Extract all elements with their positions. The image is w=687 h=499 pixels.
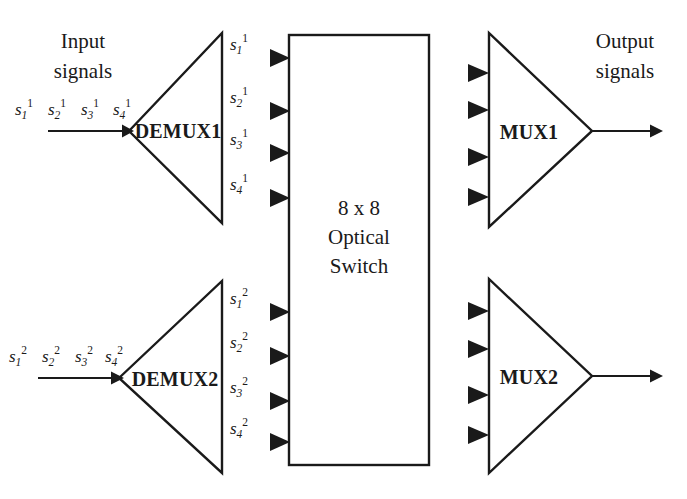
demux1-output-label-2: s21 (230, 85, 248, 109)
optical-switch-diagram: Input signals Output signals s11 s21 s31… (0, 0, 687, 499)
demux1-block: DEMUX1 (129, 33, 222, 223)
demux2-output-label-2: s22 (230, 330, 248, 354)
demux1-output-label-4: s41 (230, 172, 248, 196)
output-heading-line2: signals (596, 59, 654, 83)
mux2-label: MUX2 (500, 366, 559, 388)
diagram-canvas: Input signals Output signals s11 s21 s31… (0, 0, 687, 499)
demux1-output-wires: s11 s21 s31 s41 (215, 32, 290, 207)
mux2-output-arrow (592, 370, 663, 383)
input-arrow-top (48, 125, 134, 138)
switch-to-mux1-wires (429, 64, 489, 206)
input-bottom-signal-1: s12 (9, 344, 27, 368)
demux2-output-wires: s12 s22 s32 s42 (215, 286, 290, 451)
input-bottom-signal-3: s32 (75, 344, 93, 368)
input-heading-line1: Input (61, 29, 105, 53)
demux2-label: DEMUX2 (132, 368, 219, 390)
demux2-output-label-3: s32 (230, 375, 248, 399)
input-bundle-bottom-labels: s12 s22 s32 s42 (9, 344, 123, 368)
mux1-label: MUX1 (500, 121, 559, 143)
switch-text-line2: Optical (328, 225, 390, 249)
optical-switch-box: 8 x 8 Optical Switch (289, 35, 429, 465)
demux2-output-label-4: s42 (230, 416, 248, 440)
input-top-signal-1: s11 (15, 97, 33, 121)
input-bottom-signal-4: s42 (105, 344, 123, 368)
demux2-output-label-1: s12 (230, 286, 248, 310)
output-heading-line1: Output (596, 29, 655, 53)
input-top-signal-2: s21 (48, 97, 66, 121)
mux1-block: MUX1 (489, 33, 592, 227)
switch-to-mux2-wires (429, 302, 489, 444)
input-signals-heading: Input signals (54, 29, 112, 83)
demux1-output-label-3: s31 (230, 127, 248, 151)
demux1-label: DEMUX1 (135, 120, 222, 142)
switch-text-line3: Switch (330, 254, 389, 278)
input-top-signal-3: s31 (81, 97, 99, 121)
switch-text-line1: 8 x 8 (338, 196, 380, 220)
input-bottom-signal-2: s22 (42, 344, 60, 368)
input-arrow-bottom (38, 372, 124, 385)
output-signals-heading: Output signals (596, 29, 655, 83)
input-heading-line2: signals (54, 59, 112, 83)
mux2-block: MUX2 (489, 279, 592, 473)
input-top-signal-4: s41 (113, 97, 131, 121)
input-bundle-top-labels: s11 s21 s31 s41 (15, 97, 131, 121)
mux1-output-arrow (592, 125, 663, 138)
demux1-output-label-1: s11 (230, 32, 248, 56)
demux2-block: DEMUX2 (119, 281, 222, 473)
